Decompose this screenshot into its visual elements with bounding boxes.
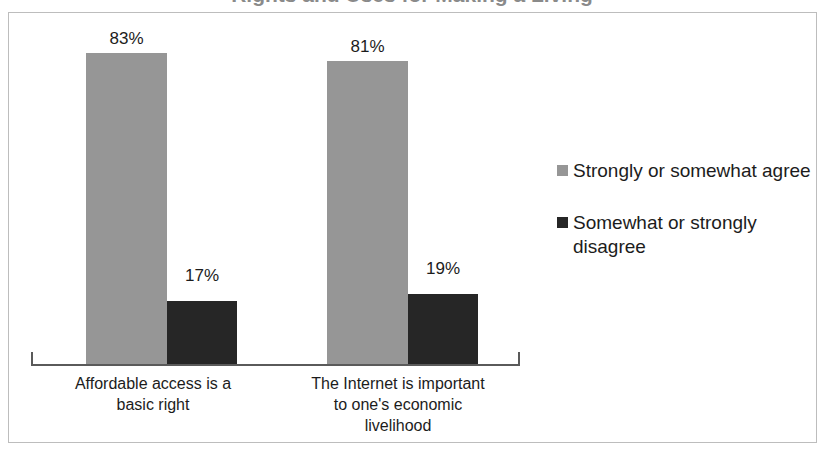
chart-title: Rights and Uses for Making a Living [0,0,824,7]
legend-item-disagree[interactable]: Somewhat or strongly disagree [557,211,812,259]
category-axis [31,352,520,366]
legend-item-agree[interactable]: Strongly or somewhat agree [557,159,812,183]
category-label-1-line-2: livelihood [275,415,521,436]
chart-frame: 83% 17% 81% 19% Affordable access is a b… [8,12,817,443]
chart-title-clip: Rights and Uses for Making a Living [0,0,824,11]
axis-baseline [31,364,520,366]
legend-swatch-disagree-icon [557,217,568,228]
category-label-1-line-1: to one's economic [275,394,521,415]
category-label-1-line-0: The Internet is important [275,373,521,394]
chart-legend: Strongly or somewhat agree Somewhat or s… [557,159,812,287]
axis-tick-right [518,352,520,366]
bar-agree-1[interactable] [327,61,408,365]
category-label-0: Affordable access is a basic right [31,373,275,415]
bar-value-label-disagree-1: 19% [408,259,478,279]
category-label-0-line-1: basic right [31,394,275,415]
category-label-1: The Internet is important to one's econo… [275,373,521,436]
legend-swatch-agree-icon [557,165,568,176]
legend-label-agree: Strongly or somewhat agree [573,159,811,183]
bar-value-label-agree-1: 81% [327,37,408,57]
bar-agree-0[interactable] [86,53,167,365]
bar-value-label-agree-0: 83% [86,29,167,49]
plot-area: 83% 17% 81% 19% Affordable access is a b… [9,13,569,444]
legend-label-disagree: Somewhat or strongly disagree [573,211,812,259]
bar-value-label-disagree-0: 17% [167,266,237,286]
category-label-0-line-0: Affordable access is a [31,373,275,394]
